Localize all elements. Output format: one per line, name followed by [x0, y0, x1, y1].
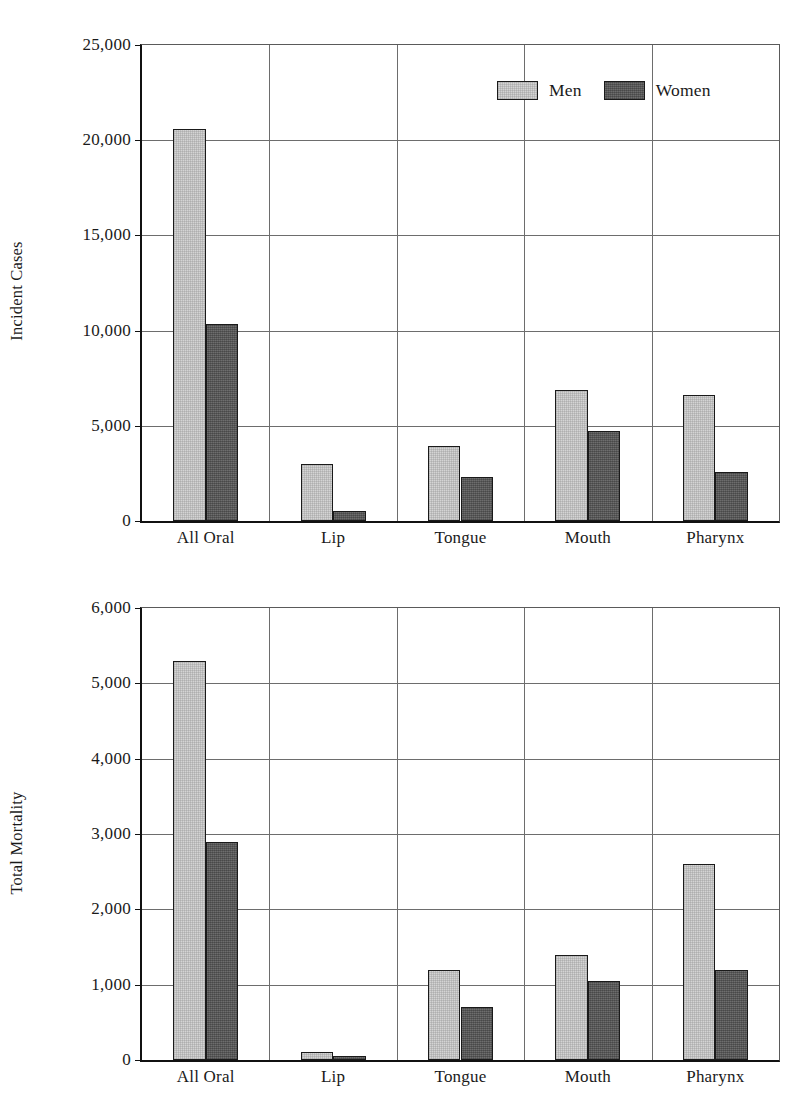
y-axis-tick-mark [135, 608, 142, 609]
y-axis-tick-mark [135, 521, 142, 522]
legend-label-men: Men [549, 80, 582, 101]
y-axis-title-incident-cases: Incident Cases [0, 18, 34, 563]
bar-pharynx-men [683, 864, 715, 1060]
legend-label-women: Women [656, 80, 711, 101]
gridline [142, 834, 779, 835]
y-axis-tick-mark [135, 331, 142, 332]
gridline [142, 235, 779, 236]
y-axis-tick-label: 6,000 [91, 598, 131, 618]
legend-item-men[interactable]: Men [497, 80, 582, 101]
y-axis-tick-label: 1,000 [91, 975, 131, 995]
x-axis-category-label: Lip [321, 1067, 345, 1087]
category-separator [269, 608, 270, 1060]
gridline [142, 683, 779, 684]
bar-all-oral-men [173, 661, 205, 1060]
y-axis-tick-label: 5,000 [91, 673, 131, 693]
legend-swatch-men-icon [497, 81, 538, 100]
y-axis-tick-mark [135, 140, 142, 141]
bar-tongue-men [428, 446, 460, 521]
y-axis-tick-mark [135, 759, 142, 760]
y-axis-tick-label: 10,000 [82, 321, 131, 341]
plot-area-incident-cases: 05,00010,00015,00020,00025,000All OralLi… [140, 44, 780, 523]
x-axis-category-label: All Oral [177, 1067, 235, 1087]
gridline [142, 759, 779, 760]
y-axis-tick-label: 3,000 [91, 824, 131, 844]
figure-two-bar-charts: Incident Cases 05,00010,00015,00020,0002… [0, 0, 812, 1118]
x-axis-category-label: Pharynx [686, 528, 744, 548]
bar-pharynx-men [683, 395, 715, 521]
y-axis-tick-label: 20,000 [82, 130, 131, 150]
category-separator [524, 608, 525, 1060]
bar-lip-men [301, 464, 333, 521]
y-axis-tick-label: 25,000 [82, 35, 131, 55]
y-axis-tick-label: 15,000 [82, 225, 131, 245]
y-axis-tick-label: 5,000 [91, 416, 131, 436]
legend-incident-cases: Men Women [497, 80, 711, 101]
bar-pharynx-women [715, 970, 747, 1060]
x-axis-category-label: Tongue [435, 1067, 487, 1087]
y-axis-tick-mark [135, 235, 142, 236]
category-separator [397, 45, 398, 521]
y-axis-tick-mark [135, 683, 142, 684]
bar-tongue-women [461, 1007, 493, 1060]
legend-item-women[interactable]: Women [604, 80, 711, 101]
category-separator [269, 45, 270, 521]
x-axis-category-label: All Oral [177, 528, 235, 548]
category-separator [397, 608, 398, 1060]
bar-all-oral-women [206, 324, 238, 521]
bar-pharynx-women [715, 472, 747, 522]
y-axis-title-text: Total Mortality [7, 791, 27, 894]
y-axis-tick-mark [135, 834, 142, 835]
bar-mouth-women [588, 431, 620, 521]
bar-all-oral-men [173, 129, 205, 521]
y-axis-tick-mark [135, 45, 142, 46]
y-axis-tick-label: 0 [122, 511, 131, 531]
x-axis-category-label: Mouth [565, 528, 611, 548]
x-axis-category-label: Tongue [435, 528, 487, 548]
category-separator [524, 45, 525, 521]
bar-lip-men [301, 1052, 333, 1060]
y-axis-tick-mark [135, 1060, 142, 1061]
y-axis-tick-mark [135, 909, 142, 910]
x-axis-category-label: Lip [321, 528, 345, 548]
gridline [142, 140, 779, 141]
bar-lip-women [333, 511, 365, 521]
bar-all-oral-women [206, 842, 238, 1060]
chart-total-mortality: Total Mortality 01,0002,0003,0004,0005,0… [0, 585, 812, 1100]
bar-mouth-men [555, 390, 587, 521]
plot-area-total-mortality: 01,0002,0003,0004,0005,0006,000All OralL… [140, 607, 780, 1062]
bar-tongue-men [428, 970, 460, 1060]
y-axis-tick-label: 4,000 [91, 749, 131, 769]
bar-mouth-women [588, 981, 620, 1060]
x-axis-category-label: Pharynx [686, 1067, 744, 1087]
y-axis-tick-label: 0 [122, 1050, 131, 1070]
y-axis-title-total-mortality: Total Mortality [0, 585, 34, 1100]
y-axis-tick-label: 2,000 [91, 899, 131, 919]
y-axis-tick-mark [135, 426, 142, 427]
bar-tongue-women [461, 477, 493, 521]
category-separator [652, 608, 653, 1060]
bar-lip-women [333, 1056, 365, 1060]
bar-mouth-men [555, 955, 587, 1060]
chart-incident-cases: Incident Cases 05,00010,00015,00020,0002… [0, 18, 812, 563]
category-separator [652, 45, 653, 521]
legend-swatch-women-icon [604, 81, 645, 100]
y-axis-tick-mark [135, 985, 142, 986]
y-axis-title-text: Incident Cases [7, 241, 27, 340]
x-axis-category-label: Mouth [565, 1067, 611, 1087]
